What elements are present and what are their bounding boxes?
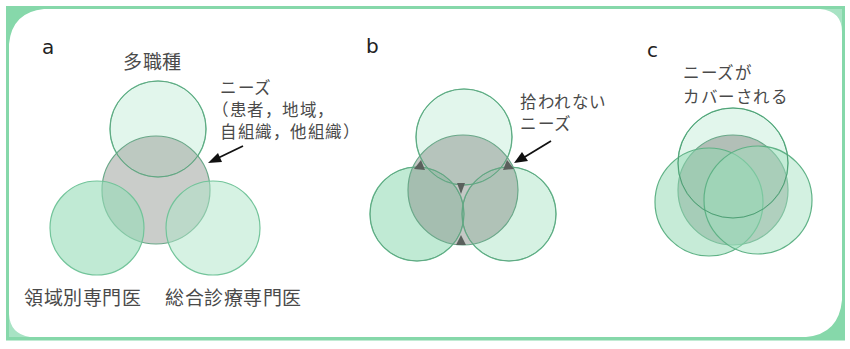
label-uncovered-line2: ニーズ <box>520 114 607 136</box>
label-needs-line2: （患者，地域， <box>212 100 360 122</box>
figure: a 多職種 ニーズ （患者，地域， 自組織，他組織） 領域別専門医 総合診療専門… <box>0 0 850 349</box>
label-covered-line2: カバーされる <box>683 86 788 110</box>
label-uncovered-needs: 拾われない ニーズ <box>520 92 607 136</box>
panel-c-letter: c <box>647 40 658 60</box>
label-covered-needs: ニーズが カバーされる <box>683 62 788 110</box>
circle-specialist <box>50 181 144 275</box>
label-covered-line1: ニーズが <box>683 62 788 86</box>
label-specialist: 領域別専門医 <box>24 287 141 309</box>
label-general-practice: 総合診療専門医 <box>165 287 302 309</box>
panel-a-letter: a <box>42 37 54 57</box>
circle-needs <box>408 135 518 245</box>
panel-b-letter: b <box>366 36 379 56</box>
label-needs-line3: 自組織，他組織） <box>220 122 360 144</box>
label-multi-profession: 多職種 <box>123 51 182 73</box>
circle-general-practice <box>704 146 812 254</box>
label-uncovered-line1: 拾われない <box>520 92 607 114</box>
label-needs: ニーズ （患者，地域， 自組織，他組織） <box>220 78 360 144</box>
circle-general-practice <box>166 181 260 275</box>
label-needs-line1: ニーズ <box>220 78 360 100</box>
